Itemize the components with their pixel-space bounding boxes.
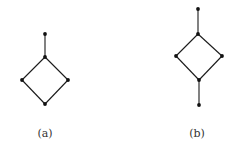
edge [45,80,68,104]
node [43,55,47,59]
edge [199,56,222,80]
caption-b: (b) [189,127,205,140]
node [197,103,201,107]
edge [22,57,45,80]
node [196,7,200,11]
node [174,54,178,58]
node [196,32,200,36]
edge [176,34,198,56]
node [66,78,70,82]
node [43,32,47,36]
edge [22,80,45,104]
node [220,54,224,58]
edge [176,56,199,80]
edge [198,34,222,56]
node [43,102,47,106]
hasse-diagram-b [174,7,224,107]
edge [45,57,68,80]
node [20,78,24,82]
hasse-diagram-a [20,32,70,106]
node [197,78,201,82]
caption-a: (a) [37,127,52,140]
